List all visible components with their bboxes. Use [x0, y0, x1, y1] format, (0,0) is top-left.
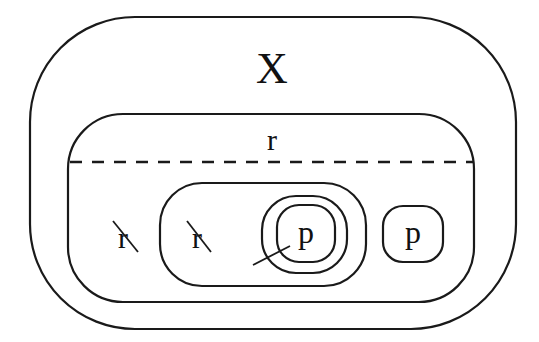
region-label-r: r [267, 123, 277, 156]
right-label-p: p [405, 214, 421, 250]
struck-label-inner: r [187, 221, 211, 254]
nested-region-diagram: X r r r p p [0, 0, 539, 342]
outer-label: X [256, 44, 288, 93]
struck-label-left: r [113, 221, 138, 254]
nested-label-p: p [298, 214, 314, 250]
